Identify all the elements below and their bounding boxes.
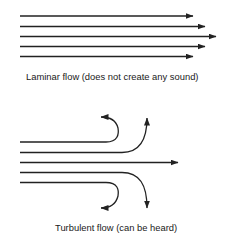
turbulent-flow-arrows (20, 117, 178, 208)
turbulent-arrow-curve-up (20, 118, 147, 153)
turbulent-arrow-curve-down (20, 173, 147, 209)
laminar-flow-arrows (20, 16, 216, 57)
laminar-flow-caption: Laminar flow (does not create any sound) (26, 72, 199, 81)
flow-diagram (0, 0, 227, 239)
turbulent-flow-caption: Turbulent flow (can be heard) (55, 223, 177, 232)
turbulent-arrow-curl-up-back (20, 117, 118, 142)
turbulent-arrow-curl-down-back (20, 183, 118, 209)
